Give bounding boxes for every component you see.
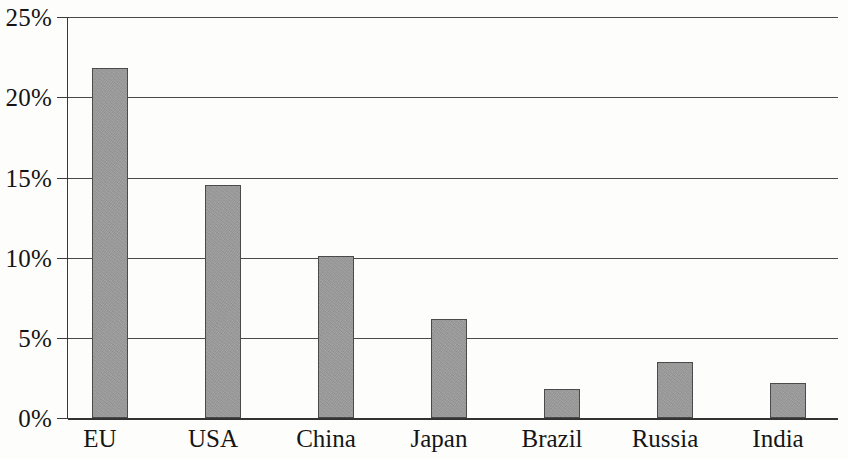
y-tick-5 (57, 338, 69, 339)
gridline-15 (68, 178, 838, 179)
bar-eu (92, 68, 128, 418)
gridline-25 (68, 17, 838, 18)
x-axis-label-brazil: Brazil (492, 426, 612, 451)
y-tick-20 (57, 97, 69, 98)
plot-area (68, 17, 838, 418)
x-axis-label-eu: EU (40, 426, 160, 451)
y-axis-label-10: 10% (0, 246, 52, 271)
x-axis-label-china: China (266, 426, 386, 451)
axis-baseline-0 (68, 418, 838, 420)
bar-russia (657, 362, 693, 418)
bar-china (318, 256, 354, 418)
gridline-10 (68, 258, 838, 259)
y-axis-line (67, 17, 68, 419)
x-axis-label-russia: Russia (605, 426, 725, 451)
y-tick-15 (57, 178, 69, 179)
gridline-20 (68, 97, 838, 98)
bar-india (770, 383, 806, 418)
y-axis-label-15: 15% (0, 166, 52, 191)
y-axis-label-25: 25% (0, 5, 52, 30)
bar-chart: 25% 20% 15% 10% 5% 0% EU USA China Japan… (0, 0, 848, 459)
bar-brazil (544, 389, 580, 418)
bar-japan (431, 319, 467, 418)
y-axis-label-5: 5% (0, 326, 52, 351)
x-axis-label-india: India (718, 426, 838, 451)
x-axis-label-usa: USA (153, 426, 273, 451)
x-axis-label-japan: Japan (379, 426, 499, 451)
bar-usa (205, 185, 241, 418)
y-tick-10 (57, 258, 69, 259)
y-tick-0 (57, 418, 69, 419)
y-tick-25 (57, 17, 69, 18)
y-axis-label-20: 20% (0, 85, 52, 110)
